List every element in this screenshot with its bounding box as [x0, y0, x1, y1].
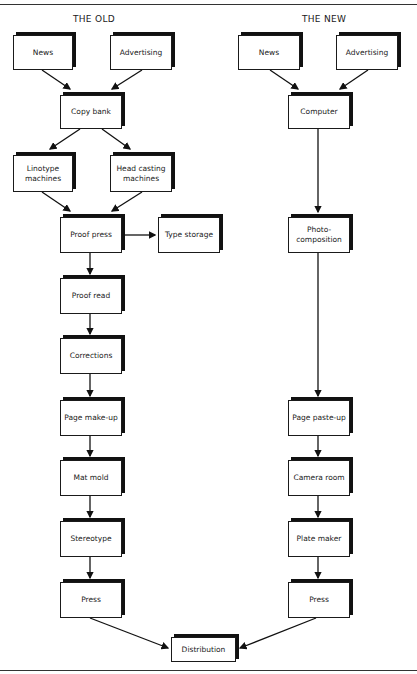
proof-read-box: Proof read	[60, 278, 122, 314]
photo-composition-label: Photo-composition	[291, 225, 347, 245]
plate-maker-box: Plate maker	[288, 521, 350, 557]
old-press-label: Press	[81, 595, 101, 605]
corrections-label: Corrections	[70, 351, 113, 361]
mat-mold-box: Mat mold	[60, 460, 122, 496]
camera-room-box: Camera room	[288, 460, 350, 496]
proof-press-box: Proof press	[60, 217, 122, 253]
computer-label: Computer	[300, 107, 337, 117]
old-news-label: News	[33, 48, 53, 58]
proof-press-label: Proof press	[70, 230, 112, 240]
new-advertising-box: Advertising	[336, 35, 398, 70]
page-pasteup-box: Page paste-up	[288, 400, 350, 436]
head-casting-box: Head casting machines	[110, 155, 172, 192]
old-news-box: News	[13, 35, 73, 70]
stereotype-label: Stereotype	[70, 534, 111, 544]
type-storage-label: Type storage	[165, 230, 213, 240]
stereotype-box: Stereotype	[60, 521, 122, 557]
computer-box: Computer	[288, 95, 350, 129]
plate-maker-label: Plate maker	[297, 534, 342, 544]
new-advertising-label: Advertising	[346, 48, 388, 58]
distribution-label: Distribution	[182, 645, 226, 655]
mat-mold-label: Mat mold	[73, 473, 108, 483]
camera-room-label: Camera room	[293, 473, 344, 483]
page-pasteup-label: Page paste-up	[292, 413, 346, 423]
new-news-box: News	[238, 35, 300, 70]
head-casting-label: Head casting machines	[113, 164, 169, 184]
new-press-label: Press	[309, 595, 329, 605]
copy-bank-label: Copy bank	[71, 107, 111, 117]
photo-composition-box: Photo-composition	[288, 217, 350, 253]
old-advertising-label: Advertising	[120, 48, 162, 58]
old-press-box: Press	[60, 582, 122, 618]
page-makeup-box: Page make-up	[60, 400, 122, 436]
linotype-label: Linotype machines	[16, 164, 70, 184]
corrections-box: Corrections	[60, 338, 122, 374]
new-press-box: Press	[288, 582, 350, 618]
proof-read-label: Proof read	[72, 291, 110, 301]
page-makeup-label: Page make-up	[64, 413, 117, 423]
copy-bank-box: Copy bank	[60, 95, 122, 129]
distribution-box: Distribution	[171, 637, 236, 662]
linotype-box: Linotype machines	[13, 155, 73, 192]
new-news-label: News	[259, 48, 279, 58]
type-storage-box: Type storage	[158, 217, 220, 253]
old-advertising-box: Advertising	[110, 35, 172, 70]
